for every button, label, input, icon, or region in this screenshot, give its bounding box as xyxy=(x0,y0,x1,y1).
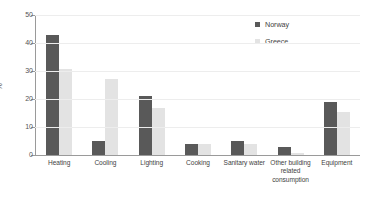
category-label: Other building related consumption xyxy=(267,159,313,184)
bar-group xyxy=(175,15,221,155)
gridline xyxy=(35,99,360,100)
legend: NorwayGreece xyxy=(255,16,355,50)
gridline xyxy=(35,71,360,72)
y-axis-tick-label: 10 xyxy=(0,123,33,130)
bar-norway xyxy=(139,96,152,155)
x-axis-category-labels: HeatingCoolingLightingCookingSanitary wa… xyxy=(36,159,360,184)
bar-greece xyxy=(244,144,257,155)
gridline xyxy=(35,15,360,16)
bar-group xyxy=(82,15,128,155)
y-axis-tick-label: 30 xyxy=(0,67,33,74)
category-label: Heating xyxy=(36,159,82,184)
category-label: Sanitary water xyxy=(221,159,267,184)
legend-item-greece: Greece xyxy=(255,33,355,50)
y-axis-tick-label: 50 xyxy=(0,11,33,18)
y-axis-tick-label: 20 xyxy=(0,95,33,102)
gridline xyxy=(35,43,360,44)
gridline xyxy=(35,127,360,128)
category-label: Lighting xyxy=(129,159,175,184)
category-label: Cooling xyxy=(82,159,128,184)
bar-norway xyxy=(92,141,105,155)
legend-swatch-icon xyxy=(255,22,260,27)
y-axis-tick-label: 40 xyxy=(0,39,33,46)
y-axis-title: % xyxy=(0,83,4,90)
bar-norway xyxy=(231,141,244,155)
bar-greece xyxy=(105,79,118,155)
bar-greece xyxy=(198,144,211,155)
bar-norway xyxy=(278,147,291,155)
bar-greece xyxy=(152,108,165,155)
bar-group xyxy=(129,15,175,155)
legend-label: Greece xyxy=(265,37,288,46)
legend-item-norway: Norway xyxy=(255,16,355,33)
bar-group xyxy=(36,15,82,155)
y-axis-tick-label: 0 xyxy=(0,151,33,158)
bar-norway xyxy=(185,144,198,155)
bar-chart: % HeatingCoolingLightingCookingSanitary … xyxy=(0,0,366,208)
bar-norway xyxy=(46,35,59,155)
bar-greece xyxy=(337,112,350,155)
bar-norway xyxy=(324,102,337,155)
bar-greece xyxy=(59,69,72,155)
category-label: Equipment xyxy=(314,159,360,184)
bar-greece xyxy=(291,153,304,155)
x-axis-line xyxy=(35,155,360,156)
legend-label: Norway xyxy=(265,20,289,29)
category-label: Cooking xyxy=(175,159,221,184)
